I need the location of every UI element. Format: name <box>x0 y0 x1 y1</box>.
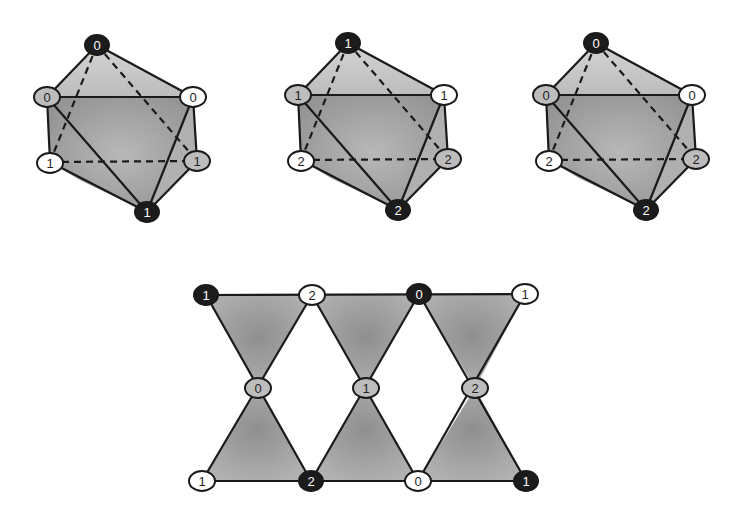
triangle-strip: 1 2 0 1 0 1 2 1 <box>189 284 538 491</box>
strip-node-top-2: 2 <box>299 285 325 305</box>
strip-node-bottom-2: 2 <box>299 471 323 491</box>
svg-text:2: 2 <box>642 203 649 218</box>
strip-triangle-lower-2 <box>311 388 418 481</box>
vertex-upper-right: 0 <box>679 85 705 105</box>
octahedron-1: 0 0 0 1 1 1 <box>34 35 210 222</box>
vertex-upper-left: 0 <box>34 87 60 107</box>
svg-text:2: 2 <box>297 154 304 169</box>
vertex-lower-left: 2 <box>536 151 562 171</box>
svg-text:0: 0 <box>414 474 421 489</box>
vertex-bottom: 2 <box>386 200 410 220</box>
svg-text:2: 2 <box>307 474 314 489</box>
octahedron-top-face <box>298 43 444 95</box>
octahedron-top-face <box>546 43 692 95</box>
vertex-lower-right: 2 <box>435 149 461 169</box>
strip-triangle-upper-1 <box>206 295 312 388</box>
svg-text:0: 0 <box>189 90 196 105</box>
octahedron-3: 0 0 0 2 2 2 <box>533 33 709 220</box>
svg-text:0: 0 <box>43 90 50 105</box>
vertex-lower-right: 2 <box>683 149 709 169</box>
strip-triangle-upper-3 <box>419 294 525 388</box>
svg-text:1: 1 <box>202 288 209 303</box>
vertex-upper-left: 0 <box>533 85 559 105</box>
svg-text:1: 1 <box>198 474 205 489</box>
vertex-bottom: 2 <box>634 200 658 220</box>
octahedron-2: 1 1 1 2 2 2 <box>285 33 461 220</box>
strip-node-bottom-3: 0 <box>405 471 431 491</box>
strip-triangle-upper-2 <box>312 294 419 388</box>
vertex-upper-right: 1 <box>431 85 457 105</box>
strip-node-middle-3: 2 <box>462 378 488 398</box>
strip-node-bottom-1: 1 <box>189 471 215 491</box>
svg-text:1: 1 <box>143 205 150 220</box>
vertex-bottom: 1 <box>135 202 159 222</box>
diagram-canvas: 0 0 0 1 1 1 <box>0 0 748 522</box>
svg-text:2: 2 <box>308 288 315 303</box>
svg-text:0: 0 <box>93 38 100 53</box>
strip-node-top-1: 1 <box>194 285 218 305</box>
strip-triangle-lower-3 <box>418 388 526 481</box>
svg-text:0: 0 <box>415 287 422 302</box>
strip-triangle-lower-1 <box>202 388 311 481</box>
edge <box>206 294 525 295</box>
vertex-top: 0 <box>85 35 109 55</box>
strip-node-top-3: 0 <box>407 284 431 304</box>
strip-node-top-4: 1 <box>512 284 538 304</box>
vertex-lower-left: 2 <box>288 151 314 171</box>
svg-text:0: 0 <box>254 381 261 396</box>
svg-text:0: 0 <box>542 88 549 103</box>
octahedron-top-face <box>47 45 193 97</box>
svg-text:1: 1 <box>46 156 53 171</box>
vertex-upper-right: 0 <box>180 87 206 107</box>
vertex-lower-left: 1 <box>37 153 63 173</box>
svg-text:2: 2 <box>545 154 552 169</box>
svg-text:1: 1 <box>521 287 528 302</box>
strip-node-middle-1: 0 <box>245 378 271 398</box>
svg-text:1: 1 <box>522 474 529 489</box>
svg-text:1: 1 <box>294 88 301 103</box>
vertex-top: 0 <box>584 33 608 53</box>
svg-text:0: 0 <box>688 88 695 103</box>
vertex-lower-right: 1 <box>184 151 210 171</box>
svg-text:1: 1 <box>344 36 351 51</box>
svg-text:1: 1 <box>362 381 369 396</box>
svg-text:2: 2 <box>692 152 699 167</box>
svg-text:2: 2 <box>444 152 451 167</box>
svg-text:2: 2 <box>394 203 401 218</box>
vertex-upper-left: 1 <box>285 85 311 105</box>
svg-text:1: 1 <box>440 88 447 103</box>
svg-text:1: 1 <box>193 154 200 169</box>
svg-text:0: 0 <box>592 36 599 51</box>
strip-node-bottom-4: 1 <box>514 471 538 491</box>
vertex-top: 1 <box>336 33 360 53</box>
strip-node-middle-2: 1 <box>353 378 379 398</box>
svg-text:2: 2 <box>471 381 478 396</box>
